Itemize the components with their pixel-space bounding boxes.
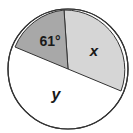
x-label: x bbox=[89, 42, 99, 59]
y-label: y bbox=[51, 86, 62, 103]
angle-label: 61° bbox=[39, 33, 60, 49]
pie-diagram: 61° x y bbox=[0, 0, 133, 133]
